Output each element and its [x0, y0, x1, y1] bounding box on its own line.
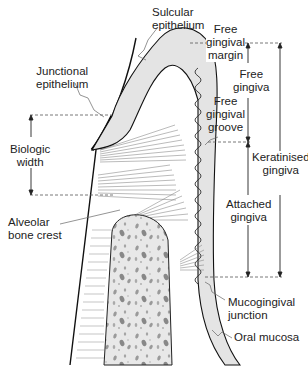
label-keratinised-gingiva: Keratinised gingiva — [252, 151, 308, 177]
label-line: groove — [206, 121, 245, 134]
label-line: bone crest — [8, 229, 62, 242]
alveolar-bone — [104, 215, 172, 365]
label-line: Free — [206, 23, 245, 36]
label-line: Free — [233, 68, 269, 81]
label-free-gingiva: Free gingiva — [233, 68, 269, 94]
label-oral-mucosa: Oral mucosa — [234, 331, 299, 344]
label-line: epithelium — [36, 78, 88, 91]
label-mucogingival-junction: Mucogingival junction — [228, 296, 295, 322]
label-sulcular-epithelium: Sulcular epithelium — [152, 6, 204, 32]
label-line: Free — [206, 95, 245, 108]
label-free-gingival-groove: Free gingival groove — [206, 95, 245, 134]
label-line: margin — [206, 49, 245, 62]
label-junctional-epithelium: Junctional epithelium — [36, 65, 88, 91]
label-alveolar-bone-crest: Alveolar bone crest — [8, 216, 62, 242]
label-line: gingiva — [226, 211, 271, 224]
label-line: Mucogingival — [228, 296, 295, 309]
label-line: gingiva — [252, 164, 308, 177]
label-line: Sulcular — [152, 6, 204, 19]
label-attached-gingiva: Attached gingiva — [226, 198, 271, 224]
label-line: Oral mucosa — [234, 331, 299, 344]
label-line: gingival — [206, 108, 245, 121]
label-line: Alveolar — [8, 216, 62, 229]
label-biologic-width: Biologic width — [10, 143, 50, 169]
label-line: gingival — [206, 36, 245, 49]
label-free-gingival-margin: Free gingival margin — [206, 23, 245, 62]
label-line: Junctional — [36, 65, 88, 78]
label-line: width — [10, 156, 50, 169]
label-line: gingiva — [233, 81, 269, 94]
label-line: Keratinised — [252, 151, 308, 164]
label-line: epithelium — [152, 19, 204, 32]
label-line: Biologic — [10, 143, 50, 156]
label-line: Attached — [226, 198, 271, 211]
label-line: junction — [228, 309, 295, 322]
